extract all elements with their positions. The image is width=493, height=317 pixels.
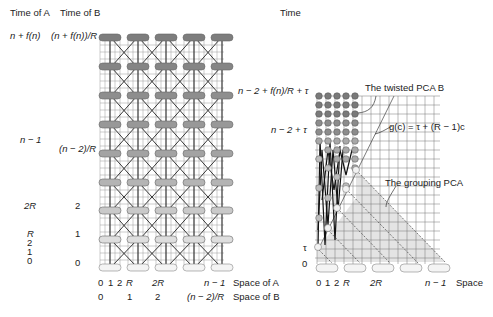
axis-space-of-a: Space of A: [233, 277, 280, 288]
pca-diagram: Time of A Time of B n + f(n) n − 1 2R R …: [0, 0, 493, 317]
y-label-b-n-minus-2: (n − 2)/R: [59, 143, 96, 154]
x-label-a-2: 2: [117, 277, 122, 288]
y-label-b-top: (n + f(n))/R: [51, 30, 97, 41]
y-label-a-0: 0: [27, 255, 32, 266]
x-label-b-2: 2: [155, 291, 160, 302]
right-bottom-pills: [316, 264, 450, 272]
x-label-a-n-minus-1: n − 1: [204, 277, 225, 288]
annotation-twisted-pca: The twisted PCA B: [365, 82, 444, 93]
x-label-1: 1: [325, 277, 330, 288]
y-label-0: 0: [302, 258, 307, 269]
header-time-of-a: Time of A: [10, 7, 50, 18]
x-label-R: R: [343, 277, 350, 288]
x-label-b-n-minus-2: (n − 2)/R: [187, 291, 224, 302]
x-label-b-0: 0: [98, 291, 103, 302]
annotation-g-function: g(c) = τ + (R − 1)c: [389, 121, 465, 132]
y-label-a-top: n + f(n): [10, 30, 40, 41]
x-label-2: 2: [334, 277, 339, 288]
row-top: [99, 34, 233, 41]
y-label-tau: τ: [303, 242, 307, 253]
y-label-b-2: 2: [75, 200, 80, 211]
y-label-a-n-minus-1: n − 1: [20, 134, 41, 145]
y-label-b-0: 0: [75, 257, 80, 268]
y-label-b-1: 1: [75, 228, 80, 239]
x-label-b-1: 1: [127, 291, 132, 302]
x-label-2R: 2R: [369, 277, 382, 288]
x-label-a-0: 0: [98, 277, 103, 288]
y-label-a-2R: 2R: [23, 200, 36, 211]
y-label-top: n − 2 + f(n)/R + τ: [238, 85, 310, 96]
y-label-n-minus-2-tau: n − 2 + τ: [271, 124, 308, 135]
axis-space: Space: [456, 277, 483, 288]
left-diagram: Time of A Time of B n + f(n) n − 1 2R R …: [10, 7, 280, 302]
x-label-0: 0: [316, 277, 321, 288]
x-label-a-1: 1: [108, 277, 113, 288]
x-label-a-R: R: [126, 277, 133, 288]
x-label-a-2R: 2R: [151, 277, 164, 288]
header-time: Time: [280, 7, 301, 18]
right-diagram: Time n − 2 + f(n)/R + τ n − 2 + τ τ 0 Th…: [238, 7, 483, 288]
header-time-of-b: Time of B: [60, 7, 100, 18]
axis-space-of-b: Space of B: [233, 291, 279, 302]
x-label-n-minus-1: n − 1: [425, 277, 446, 288]
annotation-grouping-pca: The grouping PCA: [385, 177, 464, 188]
